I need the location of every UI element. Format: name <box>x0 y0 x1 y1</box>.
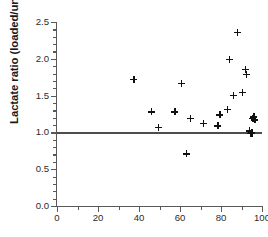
plot-area: 0.00.51.01.52.02.5020406080100 <box>57 22 262 206</box>
data-point-marker <box>216 111 223 118</box>
y-tick-minor <box>53 66 56 67</box>
x-tick-label: 80 <box>208 213 234 223</box>
x-tick-minor <box>201 207 202 210</box>
y-tick-minor <box>53 81 56 82</box>
y-tick-label: 0.0 <box>23 201 49 211</box>
x-tick-minor <box>242 207 243 210</box>
data-point-marker <box>239 89 246 96</box>
y-tick-minor <box>53 125 56 126</box>
y-tick-label: 1.5 <box>23 91 49 101</box>
data-point-marker <box>243 71 250 78</box>
y-tick-minor <box>53 118 56 119</box>
y-tick-major <box>51 132 56 133</box>
y-tick-major <box>51 206 56 207</box>
y-tick-minor <box>53 140 56 141</box>
y-tick-label: 2.0 <box>23 54 49 64</box>
x-tick-label: 60 <box>167 213 193 223</box>
y-tick-label: 0.5 <box>23 164 49 174</box>
y-tick-minor <box>53 154 56 155</box>
y-tick-label: 2.5 <box>23 17 49 27</box>
x-tick-minor <box>160 207 161 210</box>
y-axis-line <box>56 22 57 207</box>
y-tick-minor <box>53 51 56 52</box>
data-point-marker <box>155 124 162 131</box>
y-tick-minor <box>53 184 56 185</box>
x-tick-minor <box>78 207 79 210</box>
y-tick-minor <box>53 191 56 192</box>
x-tick-label: 20 <box>85 213 111 223</box>
x-tick-label: 40 <box>126 213 152 223</box>
x-tick-minor <box>119 207 120 210</box>
scatter-chart-figure: Lactate ratio (loaded/unloaded) 0.00.51.… <box>0 0 268 237</box>
data-point-marker <box>171 108 178 115</box>
x-tick-label: 0 <box>44 213 70 223</box>
y-tick-minor <box>53 29 56 30</box>
data-point-marker <box>187 115 194 122</box>
y-tick-minor <box>53 110 56 111</box>
y-tick-minor <box>53 44 56 45</box>
y-tick-minor <box>53 162 56 163</box>
data-point-marker <box>230 92 237 99</box>
y-tick-minor <box>53 74 56 75</box>
y-tick-major <box>51 59 56 60</box>
data-point-marker <box>226 56 233 63</box>
y-tick-minor <box>53 199 56 200</box>
y-tick-minor <box>53 177 56 178</box>
y-tick-label: 1.0 <box>23 127 49 137</box>
y-tick-minor <box>53 37 56 38</box>
data-point-marker <box>183 150 190 157</box>
y-tick-minor <box>53 147 56 148</box>
data-point-marker <box>130 76 137 83</box>
data-point-marker <box>214 122 221 129</box>
y-tick-minor <box>53 88 56 89</box>
x-tick-label: 100 <box>249 213 268 223</box>
data-point-marker <box>148 108 155 115</box>
data-point-marker <box>178 80 185 87</box>
data-point-marker <box>224 106 231 113</box>
y-tick-major <box>51 169 56 170</box>
y-tick-major <box>51 96 56 97</box>
y-tick-major <box>51 22 56 23</box>
data-point-marker <box>234 29 241 36</box>
data-point-marker <box>251 116 258 123</box>
data-point-marker <box>200 120 207 127</box>
reference-line-ratio-one <box>57 132 262 134</box>
y-tick-minor <box>53 103 56 104</box>
data-point-marker <box>248 129 255 136</box>
